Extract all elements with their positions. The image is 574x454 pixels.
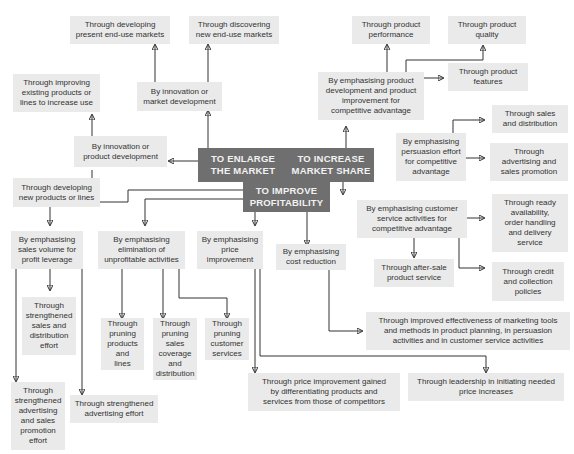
box-developing-new-products: Through developing new products or lines <box>13 178 100 207</box>
hub-increase-market-share: TO INCREASE MARKET SHARE <box>288 148 374 182</box>
box-pruning-sales-coverage: Through pruning sales coverage and distr… <box>153 318 197 380</box>
box-improving-existing-products: Through improving existing products or l… <box>13 74 100 112</box>
box-price-improvement-differentiating: Through price improvement gained by diff… <box>248 373 400 411</box>
box-product-performance: Through product performance <box>352 16 430 44</box>
box-elimination-unprofitable: By emphasising elimination of unprofitab… <box>98 231 185 269</box>
box-sales-and-distribution: Through sales and distribution <box>492 105 568 133</box>
box-product-quality: Through product quality <box>448 16 526 44</box>
box-product-development-improvement: By emphasising product development and p… <box>318 72 424 120</box>
box-product-features: Through product features <box>448 63 528 91</box>
box-leadership-price-increases: Through leadership in initiating needed … <box>408 373 564 401</box>
hub-enlarge-market: TO ENLARGE THE MARKET <box>198 148 288 182</box>
hub-improve-profitability: TO IMPROVE PROFITABILITY <box>243 182 330 212</box>
box-strengthened-sales-distribution: Through strengthened sales and distribut… <box>22 297 76 355</box>
box-sales-volume-profit-leverage: By emphasising sales volume for profit l… <box>11 231 83 269</box>
box-innovation-product-development: By innovation or product development <box>74 136 167 167</box>
box-credit-collection-policies: Through credit and collection policies <box>492 262 564 301</box>
box-price-improvement: By emphasising price improvement <box>197 231 263 269</box>
box-strengthened-advertising: Through strengthened advertising effort <box>70 395 158 423</box>
box-new-end-use-markets: Through discovering new end-use markets <box>189 16 279 44</box>
box-ready-availability: Through ready availability, order handli… <box>492 194 568 252</box>
box-present-end-use-markets: Through developing present end-use marke… <box>70 16 170 44</box>
box-advertising-sales-promotion: Through advertising and sales promotion <box>490 143 568 181</box>
box-after-sale-product-service: Through after-sale product service <box>374 259 454 287</box>
box-pruning-products-lines: Through pruning products and lines <box>101 318 144 370</box>
box-innovation-market-development: By innovation or market development <box>137 82 222 111</box>
marketing-objectives-diagram: TO ENLARGE THE MARKET TO INCREASE MARKET… <box>0 0 574 454</box>
box-pruning-customer-services: Through pruning customer services <box>205 318 249 360</box>
box-cost-reduction: By emphasising cost reduction <box>276 244 346 270</box>
box-marketing-tools-effectiveness: Through improved effectiveness of market… <box>366 312 570 350</box>
box-strengthened-advertising-promotion: Through strengthened advertising and sal… <box>11 382 65 450</box>
box-customer-service-activities: By emphasising customer service activiti… <box>357 200 467 238</box>
box-persuasion-effort: By emphasising persuasion effort for com… <box>396 133 466 181</box>
